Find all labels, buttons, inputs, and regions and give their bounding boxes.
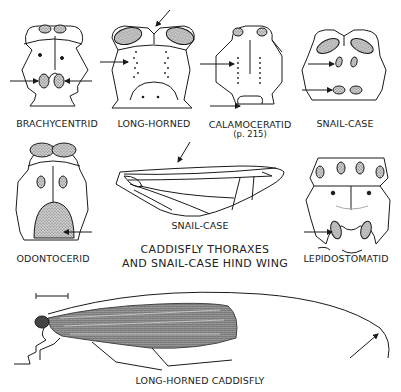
label-odontocerid: ODONTOCERID	[8, 253, 98, 264]
label-long-horned: LONG-HORNED	[106, 118, 202, 129]
label-calamoceratid-page-ref: (p. 215)	[220, 129, 280, 139]
illustration-canvas	[0, 0, 401, 392]
thorax-calamoceratid	[200, 26, 282, 106]
label-snail-case: SNAIL-CASE	[300, 118, 390, 129]
thorax-odontocerid	[16, 143, 92, 240]
thorax-long-horned	[100, 10, 196, 108]
thorax-snail-case	[302, 30, 386, 100]
figure-caption-line1: CADDISFLY THORAXES	[130, 243, 280, 257]
thorax-brachycentrid	[10, 25, 92, 106]
label-lepidostomatid: LEPIDOSTOMATID	[296, 253, 396, 264]
label-wing-snail-case: SNAIL-CASE	[160, 220, 240, 231]
figure-caption-line2: AND SNAIL-CASE HIND WING	[120, 257, 290, 271]
long-horned-caddisfly	[14, 292, 389, 370]
snail-case-hind-wing	[116, 142, 284, 216]
label-brachycentrid: BRACHYCENTRID	[12, 118, 102, 129]
thorax-lepidostomatid	[304, 158, 390, 253]
label-long-horned-caddisfly: LONG-HORNED CADDISFLY	[130, 375, 270, 386]
